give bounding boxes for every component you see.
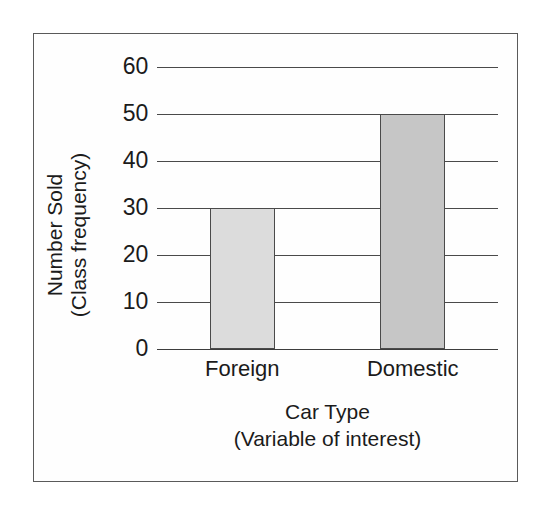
x-tick-label-foreign: Foreign [157, 358, 328, 380]
gridline [157, 302, 498, 303]
gridline [157, 255, 498, 256]
gridline [157, 67, 498, 68]
y-tick-label: 40 [88, 149, 148, 172]
y-tick-label: 0 [88, 337, 148, 360]
gridline [157, 114, 498, 115]
y-axis-title-line1: Number Sold [43, 153, 67, 318]
x-tick-label-domestic: Domestic [328, 358, 499, 380]
x-axis-tick-labels: ForeignDomestic [157, 358, 498, 390]
x-axis-title-line1: Car Type [157, 398, 498, 425]
y-tick-label: 50 [88, 102, 148, 125]
gridline [157, 208, 498, 209]
y-tick-label: 10 [88, 290, 148, 313]
plot-area [157, 67, 498, 349]
x-axis-title-line2: (Variable of interest) [157, 425, 498, 452]
bar-domestic [380, 114, 445, 349]
bar-foreign [210, 208, 275, 349]
y-axis-tick-labels: 6050403020100 [80, 67, 148, 349]
x-axis-title: Car Type (Variable of interest) [157, 398, 498, 453]
gridline [157, 161, 498, 162]
bar-chart-figure: Number Sold (Class frequency) 6050403020… [0, 0, 550, 506]
y-tick-label: 20 [88, 243, 148, 266]
y-tick-label: 30 [88, 196, 148, 219]
x-axis-baseline [157, 349, 498, 350]
y-tick-label: 60 [88, 55, 148, 78]
